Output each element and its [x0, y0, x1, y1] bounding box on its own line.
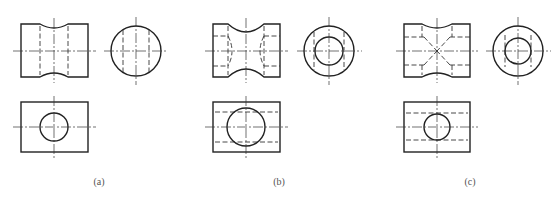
panel-c-front-view — [396, 18, 478, 83]
panel-b — [205, 17, 362, 158]
panel-a-side-view — [104, 17, 168, 85]
panel-b-top-view — [205, 96, 288, 158]
panel-c-label: (c) — [464, 176, 475, 187]
panel-a-front-view — [13, 18, 96, 83]
panel-c-side-view — [486, 17, 551, 85]
technical-drawing — [0, 0, 560, 203]
panel-b-label: (b) — [273, 176, 285, 187]
panel-a-top-view — [13, 96, 96, 158]
panel-a-label: (a) — [93, 176, 104, 187]
panel-b-front-view — [205, 18, 288, 83]
panel-b-side-view — [297, 17, 362, 85]
panel-c — [396, 17, 551, 158]
panel-c-top-view — [396, 96, 478, 158]
panel-a — [13, 17, 168, 158]
